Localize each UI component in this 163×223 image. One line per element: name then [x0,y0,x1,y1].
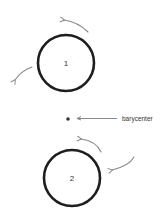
body-2: 2 [44,150,100,206]
barycenter-dot [66,117,70,121]
orbit-arrow-left-body-1 [15,67,32,80]
orbit-arrow-right-body-2 [112,157,134,170]
barycenter-label: barycenter [122,115,154,123]
body-1-label: 1 [64,59,69,68]
orbit-arrow-top-body-1 [64,20,88,32]
barycenter-marker: barycenter [66,115,153,123]
body-2-label: 2 [70,174,75,183]
body-1: 1 [38,35,94,91]
two-body-orbit-diagram: 1 barycenter 2 [0,0,163,223]
orbit-arrow-top-body-2 [81,139,101,152]
